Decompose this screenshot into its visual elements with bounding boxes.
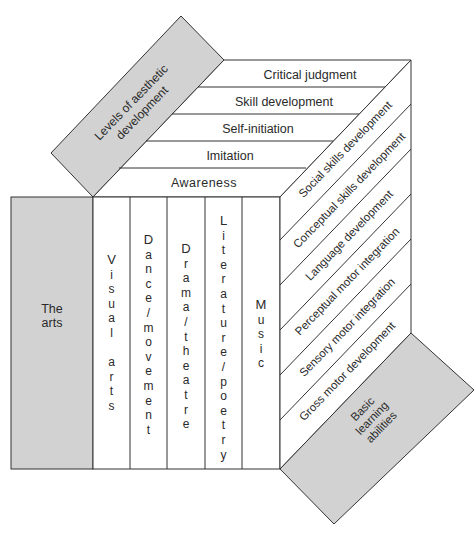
art-letter: l bbox=[110, 326, 113, 340]
arts-panel bbox=[11, 197, 93, 469]
art-letter: i bbox=[222, 229, 225, 243]
art-letter: s bbox=[258, 327, 264, 341]
art-letter: M bbox=[256, 297, 267, 312]
art-letter: r bbox=[110, 370, 114, 384]
art-letter: r bbox=[184, 257, 188, 271]
art-letter: e bbox=[145, 291, 152, 305]
art-letter: n bbox=[145, 262, 152, 276]
level-critical-judgment: Critical judgment bbox=[263, 68, 357, 82]
art-letter: s bbox=[109, 399, 115, 413]
art-letter: a bbox=[145, 248, 152, 262]
art-letter: v bbox=[146, 350, 152, 364]
art-letter: r bbox=[222, 272, 226, 286]
art-letter: c bbox=[258, 356, 264, 370]
art-letter: y bbox=[221, 448, 227, 462]
art-letter: D bbox=[181, 241, 190, 256]
art-letter: D bbox=[144, 232, 153, 247]
art-letter: u bbox=[258, 313, 265, 327]
art-letter: a bbox=[183, 300, 190, 314]
level-imitation: Imitation bbox=[206, 149, 253, 163]
art-letter: e bbox=[220, 404, 227, 418]
art-letter: L bbox=[220, 213, 227, 228]
art-letter: o bbox=[145, 335, 152, 349]
art-letter: r bbox=[222, 433, 226, 447]
art-letter: m bbox=[144, 379, 154, 393]
art-letter: e bbox=[145, 394, 152, 408]
art-letter: i bbox=[110, 268, 113, 282]
art-letter: a bbox=[183, 271, 190, 285]
art-letter: s bbox=[109, 282, 115, 296]
art-letter: u bbox=[108, 297, 115, 311]
art-letter: e bbox=[220, 345, 227, 359]
art-letter: a bbox=[183, 373, 190, 387]
art-letter: e bbox=[145, 364, 152, 378]
art-letter: o bbox=[220, 389, 227, 403]
level-skill-development: Skill development bbox=[235, 95, 333, 109]
art-letter: a bbox=[108, 311, 115, 325]
art-letter: m bbox=[181, 286, 191, 300]
art-letter: e bbox=[183, 359, 190, 373]
arts-panel-label-1: The bbox=[41, 302, 63, 316]
art-letter: h bbox=[183, 344, 190, 358]
level-awareness: Awareness bbox=[171, 176, 237, 190]
level-self-initiation: Self-initiation bbox=[222, 122, 294, 136]
art-letter: m bbox=[144, 321, 154, 335]
art-letter: V bbox=[107, 252, 116, 267]
art-letter: e bbox=[220, 258, 227, 272]
art-letter: e bbox=[183, 417, 190, 431]
art-letter: r bbox=[222, 331, 226, 345]
art-letter: i bbox=[260, 342, 263, 356]
art-letter: a bbox=[220, 287, 227, 301]
arts-panel-label-2: arts bbox=[42, 316, 63, 330]
art-letter: a bbox=[108, 355, 115, 369]
art-letter: n bbox=[145, 408, 152, 422]
arts-face: The arts Visualarts Dance/movement Drama… bbox=[11, 197, 280, 469]
art-letter: c bbox=[146, 277, 152, 291]
art-letter: r bbox=[184, 403, 188, 417]
art-letter: u bbox=[220, 316, 227, 330]
arts-learning-cube-diagram: Levels of aesthetic development Critical… bbox=[0, 0, 475, 534]
art-letter: p bbox=[220, 375, 227, 389]
